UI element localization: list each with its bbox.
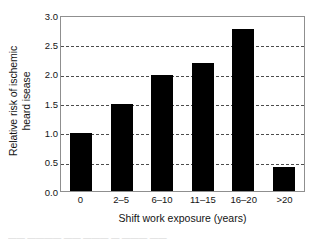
y-tick-label: 1.5 <box>36 100 58 110</box>
figure-bar-chart: Relative risk of ischemic heard isease 3… <box>0 0 317 242</box>
x-tick-label: 11–15 <box>186 195 220 205</box>
y-tick-label: 2.5 <box>36 41 58 51</box>
x-tick-label: 16–20 <box>227 195 261 205</box>
y-axis-title-line-2: heard isease <box>19 46 32 156</box>
y-tick-label: 0.5 <box>36 158 58 168</box>
x-tick-label: 6–10 <box>145 195 179 205</box>
plot-area <box>60 16 305 192</box>
bar <box>192 63 214 191</box>
y-axis-title: Relative risk of ischemic heard isease <box>2 8 36 194</box>
x-tick-label: 2–5 <box>104 195 138 205</box>
y-axis-title-line-1: Relative risk of ischemic <box>7 46 20 156</box>
y-tick-label: 0.0 <box>36 188 58 198</box>
bar <box>70 133 92 191</box>
bar-series <box>61 17 304 191</box>
bar <box>111 104 133 191</box>
y-tick-label: 1.0 <box>36 129 58 139</box>
bar <box>151 75 173 191</box>
bar <box>273 167 295 191</box>
y-axis-tick-labels: 3.0 2.5 2.0 1.5 1.0 0.5 0.0 <box>34 0 58 242</box>
x-axis-tick-labels: 0 2–5 6–10 11–15 16–20 >20 <box>60 195 305 209</box>
x-axis-title: Shift work exposure (years) <box>60 212 305 224</box>
bar <box>232 29 254 191</box>
y-tick-label: 3.0 <box>36 12 58 22</box>
caption-fragment: —— ———— —— ——— — ——— —— <box>8 234 309 241</box>
y-tick-label: 2.0 <box>36 70 58 80</box>
x-tick-label: 0 <box>63 195 97 205</box>
x-tick-label: >20 <box>268 195 302 205</box>
